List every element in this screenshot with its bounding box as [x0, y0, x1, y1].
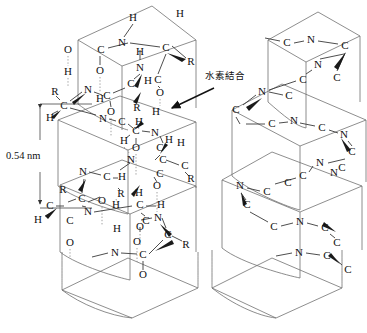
atom-label-c: C: [270, 220, 277, 232]
atom-label-c: C: [139, 248, 146, 260]
atom-label-r: R: [59, 183, 67, 195]
atom-label-h: H: [144, 74, 152, 86]
atom-label-c: C: [156, 167, 163, 179]
atom-label-c: C: [232, 103, 239, 115]
atom-label-r: R: [51, 85, 59, 97]
atom-label-c: C: [318, 121, 325, 133]
atom-label-r: R: [133, 101, 141, 113]
atom-label-o: O: [132, 141, 140, 153]
atom-label-c: C: [164, 228, 171, 240]
ribbon-r4: [212, 258, 342, 318]
atom-label-h: H: [165, 133, 173, 145]
atom-label-h: H: [96, 92, 104, 104]
atom-label-n: N: [84, 83, 92, 95]
atom-label-c: C: [323, 249, 330, 261]
atom-label-c: C: [181, 159, 188, 171]
atom-label-h: H: [157, 198, 165, 210]
atom-label-c: C: [263, 185, 270, 197]
atom-label-o: O: [153, 179, 161, 191]
atom-label-c: C: [283, 36, 290, 48]
atom-label-n: N: [118, 36, 126, 48]
atom-label-h: H: [177, 136, 185, 148]
atom-label-n: N: [236, 179, 244, 191]
atom-label-h: H: [118, 170, 126, 182]
atom-label-c: C: [243, 198, 250, 210]
atom-label-n: N: [111, 246, 119, 258]
hydrogen-bond-label: 水素結合: [205, 70, 245, 81]
atom-label-r: R: [182, 238, 190, 250]
atom-label-c: C: [118, 115, 125, 127]
atom-label-n: N: [136, 61, 144, 73]
atom-label-h: H: [64, 65, 72, 77]
atom-label-o: O: [64, 43, 72, 55]
atom-label-c: C: [103, 170, 110, 182]
atom-label-c: C: [284, 176, 291, 188]
atom-label-o: O: [66, 236, 74, 248]
callout-arrow: [172, 88, 214, 108]
atom-label-n: N: [79, 165, 87, 177]
atom-label-c: C: [156, 141, 163, 153]
right-panel-simplified: CNCNCCNCCCNCNCNCCNNCCCCNCCNCC: [212, 12, 366, 318]
atom-label-n: N: [307, 33, 315, 45]
atom-label-c: C: [159, 153, 166, 165]
atom-label-r: R: [187, 172, 195, 184]
atom-label-h: H: [46, 111, 54, 123]
atom-label-h: H: [112, 198, 120, 210]
pitch-label: 0.54 nm: [6, 150, 40, 161]
atom-label-c: C: [321, 221, 328, 233]
atom-label-r: R: [187, 55, 195, 67]
atom-label-c: C: [299, 169, 306, 181]
atom-label-c: C: [162, 41, 169, 53]
atom-label-n: N: [314, 58, 322, 70]
atom-label-c: C: [60, 99, 67, 111]
atom-label-o: O: [98, 194, 106, 206]
atom-label-c: C: [132, 124, 139, 136]
atom-label-n: N: [316, 156, 324, 168]
atom-label-o: O: [139, 268, 147, 280]
atom-label-h: H: [129, 11, 137, 23]
atom-label-n: N: [151, 126, 159, 138]
atom-label-o: O: [107, 105, 115, 117]
atom-label-n: N: [330, 166, 338, 178]
atom-label-c: C: [333, 71, 340, 83]
atom-label-h: H: [120, 134, 128, 146]
atom-label-n: N: [154, 211, 162, 223]
alpha-helix-diagram: HHNHCOCRONHCHCORNCHCHORHNCHCNHHOCHNCCRNC…: [0, 0, 367, 333]
atom-label-n: N: [296, 215, 304, 227]
left-panel-detailed: HHNHCOCRONHCHCORNCHCHORHNCHCNHHOCHNCCRNC…: [34, 6, 198, 318]
atom-label-c: C: [285, 89, 292, 101]
atom-label-h: H: [136, 45, 144, 57]
atom-label-h: H: [152, 105, 160, 117]
atom-label-c: C: [344, 263, 351, 275]
atom-label-c: C: [333, 236, 340, 248]
atom-label-n: N: [258, 85, 266, 97]
atom-label-c: C: [127, 77, 134, 89]
atom-label-n: N: [127, 153, 135, 165]
atom-label-c: C: [46, 199, 53, 211]
atom-label-c: C: [103, 89, 110, 101]
atom-label-c: C: [154, 73, 161, 85]
atom-label-o: O: [96, 64, 104, 76]
atom-label-c: C: [268, 117, 275, 129]
atom-label-h: H: [135, 186, 143, 198]
atom-label-h: H: [176, 7, 184, 19]
atom-label-n: N: [295, 246, 303, 258]
atom-label-o: O: [156, 86, 164, 98]
atom-label-n: N: [99, 112, 107, 124]
atom-label-c: C: [97, 43, 104, 55]
atom-label-c: C: [136, 198, 143, 210]
atom-label-c: C: [338, 161, 345, 173]
figure-canvas: HHNHCOCRONHCHCORNCHCHORHNCHCNHHOCHNCCRNC…: [0, 0, 367, 333]
atom-label-c: C: [299, 73, 306, 85]
atom-label-h: H: [34, 213, 42, 225]
atom-label-n: N: [290, 114, 298, 126]
atom-label-o: O: [136, 220, 144, 232]
atom-label-c: C: [341, 39, 348, 51]
atom-label-n: N: [84, 205, 92, 217]
atom-label-h: H: [113, 222, 121, 234]
atom-label-n: N: [340, 128, 348, 140]
atom-label-c: C: [78, 192, 85, 204]
atom-label-c: C: [66, 214, 73, 226]
atom-label-o: O: [133, 235, 141, 247]
atom-label-c: C: [348, 145, 355, 157]
